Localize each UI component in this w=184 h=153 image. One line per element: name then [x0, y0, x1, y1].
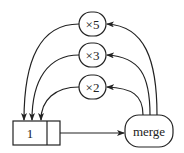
node-cell: 1	[13, 121, 60, 145]
node-times3: ×3	[79, 43, 106, 67]
node-times3-label: ×3	[86, 48, 100, 63]
node-times2: ×2	[79, 75, 106, 99]
node-times2-label: ×2	[86, 80, 100, 95]
node-merge-label: merge	[133, 124, 165, 139]
edge-merge-to-times3	[107, 55, 150, 115]
stream-diagram: ×5 ×3 ×2 merge 1	[0, 0, 184, 153]
node-merge: merge	[125, 115, 173, 147]
node-times5: ×5	[79, 12, 106, 36]
edge-times2-to-cell	[41, 87, 79, 120]
edge-merge-to-times2	[107, 87, 143, 115]
node-times5-label: ×5	[86, 17, 100, 32]
node-cell-label: 1	[27, 126, 34, 141]
